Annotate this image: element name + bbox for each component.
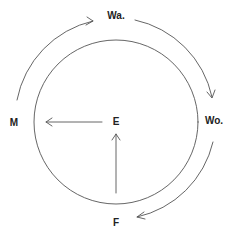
- node-label-wa: Wa.: [107, 11, 124, 21]
- node-label-wo: Wo.: [205, 116, 223, 126]
- arc-wa-to-wo: [135, 20, 212, 97]
- cycle-diagram: Wa. Wo. F M E: [0, 0, 229, 240]
- node-label-f: F: [113, 218, 119, 228]
- node-label-m: M: [10, 118, 18, 128]
- node-label-e: E: [113, 117, 120, 127]
- arc-m-to-wa: [17, 21, 93, 100]
